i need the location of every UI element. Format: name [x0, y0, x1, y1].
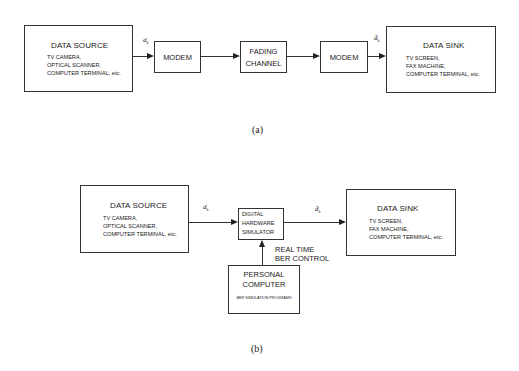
a-signal-dk-hat: d̂k	[374, 34, 380, 43]
a-data-source-box: DATA SOURCE TV CAMERA, OPTICAL SCANNER, …	[24, 25, 133, 92]
a-arrowhead-icon	[233, 53, 240, 59]
b-arrow-simulator-to-sink	[284, 222, 340, 223]
b-personal-computer-box: PERSONAL COMPUTER BER SIMULATION PROGRAM…	[228, 265, 300, 314]
a-modem-rx-box: MODEM	[320, 41, 368, 73]
a-arrow-channel-to-modem	[287, 56, 314, 57]
a-signal-dk: dk	[143, 36, 149, 45]
a-arrowhead-icon	[313, 53, 320, 59]
a-channel-line1: FADING	[241, 46, 286, 57]
b-simulator-box: DIGITAL HARDWARE SIMULATOR	[238, 208, 284, 240]
caption-b: (b)	[251, 343, 263, 354]
b-simulator-line2: HARDWARE	[242, 219, 274, 228]
a-data-sink-box: DATA SINK TV SCREEN, FAX MACHINE, COMPUT…	[386, 26, 496, 93]
a-modem-tx-label: MODEM	[155, 52, 200, 63]
a-modem-rx-label: MODEM	[321, 52, 367, 63]
b-simulator-line1: DIGITAL	[242, 210, 263, 219]
b-pc-programs: BER SIMULATION PROGRAMS	[229, 293, 299, 304]
a-fading-channel-box: FADING CHANNEL	[240, 41, 287, 73]
b-simulator-line3: SIMULATOR	[242, 228, 274, 237]
b-data-sink-box: DATA SINK TV SCREEN, FAX MACHINE, COMPUT…	[346, 189, 456, 256]
b-arrowhead-icon	[339, 219, 346, 225]
a-modem-tx-box: MODEM	[154, 41, 201, 73]
b-pc-line2: COMPUTER	[229, 279, 299, 290]
a-channel-line2: CHANNEL	[241, 58, 286, 69]
a-data-sink-title: DATA SINK	[423, 41, 465, 50]
a-arrowhead-icon	[379, 53, 386, 59]
a-arrow-modem-to-channel	[201, 56, 234, 57]
b-control-line2: BER CONTROL	[275, 254, 329, 263]
b-arrowhead-up-icon	[259, 240, 265, 247]
b-arrow-source-to-simulator	[189, 222, 232, 223]
a-data-source-item-3: COMPUTER TERMINAL, etc.	[47, 69, 121, 77]
caption-a: (a)	[252, 124, 263, 135]
a-arrow-source-to-modem	[133, 56, 148, 57]
a-arrowhead-icon	[147, 53, 154, 59]
b-control-line1: REAL TIME	[275, 245, 314, 254]
b-arrowhead-icon	[231, 219, 238, 225]
b-data-source-box: DATA SOURCE TV CAMERA, OPTICAL SCANNER, …	[80, 185, 189, 253]
a-data-source-title: DATA SOURCE	[51, 41, 108, 50]
b-data-source-item-3: COMPUTER TERMINAL, etc.	[103, 230, 177, 238]
b-data-source-title: DATA SOURCE	[110, 201, 167, 210]
b-signal-dk-hat: d̂k	[315, 205, 321, 214]
b-data-sink-item-3: COMPUTER TERMINAL, etc.	[369, 233, 443, 241]
b-signal-dk: dk	[203, 203, 209, 212]
a-data-sink-item-3: COMPUTER TERMINAL, etc.	[406, 70, 480, 78]
b-arrow-pc-to-simulator	[262, 246, 263, 265]
b-data-sink-title: DATA SINK	[377, 204, 419, 213]
